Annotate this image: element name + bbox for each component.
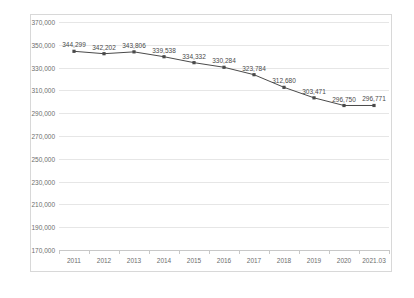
x-axis-tick-label: 2021.03	[362, 257, 386, 264]
data-point-marker	[342, 104, 345, 107]
x-axis-tick	[179, 250, 180, 254]
x-axis-tick	[389, 250, 390, 254]
y-axis-tick-label: 350,000	[32, 41, 56, 48]
data-point-marker	[162, 55, 165, 58]
data-point-marker	[312, 96, 315, 99]
x-axis-tick-label: 2014	[157, 257, 171, 264]
x-axis-tick-label: 2019	[307, 257, 321, 264]
x-axis-tick-label: 2011	[67, 257, 81, 264]
y-axis-tick-label: 290,000	[32, 110, 56, 117]
x-axis-tick	[209, 250, 210, 254]
y-axis-tick-label: 270,000	[32, 133, 56, 140]
data-point-label: 343,806	[122, 42, 146, 49]
x-axis-tick-label: 2017	[247, 257, 261, 264]
data-point-marker	[282, 86, 285, 89]
y-axis-tick-label: 250,000	[32, 155, 56, 162]
y-axis-tick-label: 230,000	[32, 178, 56, 185]
x-axis-tick	[239, 250, 240, 254]
x-axis-tick-label: 2015	[187, 257, 201, 264]
y-axis-tick-label: 330,000	[32, 64, 56, 71]
data-point-marker	[72, 50, 75, 53]
data-point-marker	[192, 61, 195, 64]
x-axis-tick	[149, 250, 150, 254]
data-point-label: 339,538	[152, 47, 176, 54]
data-point-label: 330,284	[212, 57, 236, 64]
data-point-label: 323,784	[242, 65, 266, 72]
y-axis-tick-label: 370,000	[32, 19, 56, 26]
data-point-marker	[222, 66, 225, 69]
data-point-label: 296,750	[332, 96, 356, 103]
data-point-marker	[372, 104, 375, 107]
data-point-label: 303,471	[302, 88, 326, 95]
x-axis-tick-label: 2016	[217, 257, 231, 264]
line-series	[59, 22, 389, 250]
data-point-label: 312,680	[272, 77, 296, 84]
x-axis-tick	[89, 250, 90, 254]
x-axis-tick	[329, 250, 330, 254]
data-point-marker	[252, 73, 255, 76]
x-axis-tick-label: 2020	[337, 257, 351, 264]
x-axis-tick-label: 2013	[127, 257, 141, 264]
y-axis-tick-label: 190,000	[32, 224, 56, 231]
x-axis-tick	[269, 250, 270, 254]
data-point-marker	[102, 52, 105, 55]
y-axis-tick-label: 210,000	[32, 201, 56, 208]
data-point-label: 334,332	[182, 53, 206, 60]
y-axis-tick-label: 310,000	[32, 87, 56, 94]
data-point-label: 344,299	[62, 41, 86, 48]
data-point-label: 296,771	[362, 95, 386, 102]
plot-area: 370,000350,000330,000310,000290,000270,0…	[59, 22, 389, 250]
x-axis-tick	[119, 250, 120, 254]
x-axis-tick-label: 2012	[97, 257, 111, 264]
y-axis-tick-label: 170,000	[32, 247, 56, 254]
x-axis	[59, 250, 389, 251]
x-axis-tick	[59, 250, 60, 254]
data-point-marker	[132, 50, 135, 53]
x-axis-tick	[299, 250, 300, 254]
x-axis-tick-label: 2018	[277, 257, 291, 264]
data-point-label: 342,202	[92, 44, 116, 51]
x-axis-tick	[359, 250, 360, 254]
